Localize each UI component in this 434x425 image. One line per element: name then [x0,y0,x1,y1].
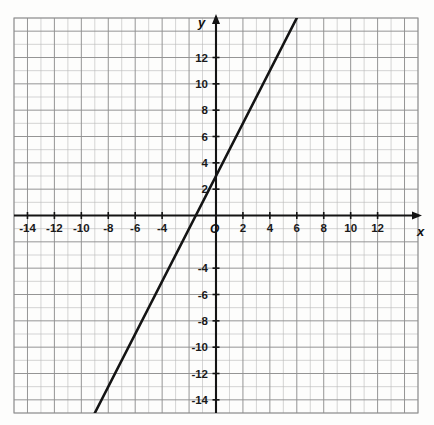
origin-label: O [210,222,220,236]
coordinate-plane-graph: -14-12-10-8-6-424681012 12108642-4-6-8-1… [0,0,434,425]
y-tick-label: -6 [198,289,208,301]
plot-svg: -14-12-10-8-6-424681012 12108642-4-6-8-1… [0,0,434,425]
y-tick-label: -14 [191,394,208,406]
y-tick-label: 6 [202,131,208,143]
y-tick-label: 8 [202,104,209,116]
y-tick-label: -8 [198,315,209,327]
y-tick-label: 10 [195,78,208,90]
x-tick-label: 2 [240,222,246,234]
y-axis-label: y [197,15,206,30]
x-tick-label: -12 [46,222,63,234]
x-tick-label: -14 [19,222,36,234]
x-tick-label: -4 [157,222,168,234]
x-axis-label: x [416,224,425,239]
x-tick-label: -10 [73,222,90,234]
y-tick-label: 12 [195,52,208,64]
x-tick-label: 10 [344,222,357,234]
y-tick-label: -4 [198,262,209,274]
y-tick-label: -12 [191,368,208,380]
y-tick-label: -10 [191,341,208,353]
x-tick-label: -6 [130,222,140,234]
x-tick-label: 8 [321,222,328,234]
x-tick-label: -8 [103,222,114,234]
x-tick-label: 4 [267,222,274,234]
x-tick-label: 6 [294,222,300,234]
y-tick-label: 4 [202,157,209,169]
x-tick-label: 12 [371,222,384,234]
